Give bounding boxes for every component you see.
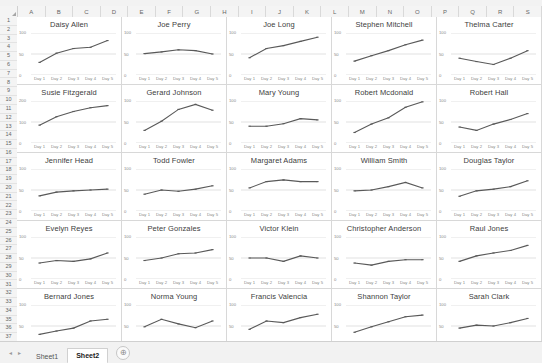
row-header-15[interactable]: 15 <box>0 140 17 149</box>
chart-joe-long[interactable]: Joe Long050100Day 1Day 2Day 3Day 4Day 5 <box>227 17 332 85</box>
row-header-19[interactable]: 19 <box>0 175 17 184</box>
x-tick-label: Day 4 <box>82 75 99 82</box>
x-tick-label: Day 1 <box>241 279 258 286</box>
sheet-prev-icon[interactable]: ◂ <box>9 350 12 356</box>
series-plot <box>241 33 326 75</box>
column-header-k[interactable]: K <box>294 6 322 17</box>
x-tick-label: Day 4 <box>187 279 204 286</box>
row-header-32[interactable]: 32 <box>0 289 17 298</box>
column-header-b[interactable]: B <box>46 6 74 17</box>
x-tick-label: Day 5 <box>99 279 116 286</box>
row-header-7[interactable]: 7 <box>0 70 17 79</box>
sheet-tab-sheet2[interactable]: Sheet2 <box>67 348 108 363</box>
row-header-2[interactable]: 2 <box>0 26 17 35</box>
row-header-25[interactable]: 25 <box>0 228 17 237</box>
chart-sarah-clark[interactable]: Sarah Clark050100Day 1Day 2Day 3Day 4Day… <box>437 289 542 342</box>
row-header-24[interactable]: 24 <box>0 219 17 228</box>
chart-mary-young[interactable]: Mary Young050100Day 1Day 2Day 3Day 4Day … <box>227 85 332 153</box>
row-header-21[interactable]: 21 <box>0 193 17 202</box>
chart-robert-hall[interactable]: Robert Hall050100Day 1Day 2Day 3Day 4Day… <box>437 85 542 153</box>
row-header-35[interactable]: 35 <box>0 316 17 325</box>
x-tick-label: Day 5 <box>519 143 536 150</box>
column-header-m[interactable]: M <box>349 6 377 17</box>
column-header-o[interactable]: O <box>404 6 432 17</box>
x-tick-label: Day 2 <box>363 211 380 218</box>
chart-norma-young[interactable]: Norma Young050100Day 1Day 2Day 3Day 4Day… <box>122 289 227 342</box>
row-header-6[interactable]: 6 <box>0 61 17 70</box>
sheet-tab-sheet1[interactable]: Sheet1 <box>28 350 66 363</box>
row-header-22[interactable]: 22 <box>0 201 17 210</box>
row-header-8[interactable]: 8 <box>0 78 17 87</box>
chart-margaret-adams[interactable]: Margaret Adams050100Day 1Day 2Day 3Day 4… <box>227 153 332 221</box>
row-header-31[interactable]: 31 <box>0 280 17 289</box>
x-axis: Day 1Day 2Day 3Day 4Day 5 <box>346 279 431 286</box>
column-header-j[interactable]: J <box>266 6 294 17</box>
sheet-grid[interactable]: Daisy Allen050100Day 1Day 2Day 3Day 4Day… <box>17 17 542 342</box>
chart-robert-mcdonald[interactable]: Robert Mcdonald050100Day 1Day 2Day 3Day … <box>332 85 437 153</box>
row-header-23[interactable]: 23 <box>0 210 17 219</box>
column-header-l[interactable]: L <box>321 6 349 17</box>
column-header-p[interactable]: P <box>432 6 460 17</box>
select-all-button[interactable] <box>0 6 18 17</box>
y-tick-label: 0 <box>124 278 126 282</box>
chart-title: Francis Valencia <box>227 289 331 301</box>
column-header-g[interactable]: G <box>183 6 211 17</box>
column-header-n[interactable]: N <box>377 6 405 17</box>
chart-william-smith[interactable]: William Smith050100Day 1Day 2Day 3Day 4D… <box>332 153 437 221</box>
row-header-28[interactable]: 28 <box>0 254 17 263</box>
chart-evelyn-reyes[interactable]: Evelyn Reyes050100Day 1Day 2Day 3Day 4Da… <box>17 221 122 289</box>
y-tick-label: 50 <box>229 256 234 260</box>
row-header-20[interactable]: 20 <box>0 184 17 193</box>
row-header-16[interactable]: 16 <box>0 149 17 158</box>
chart-peter-gonzales[interactable]: Peter Gonzales050100Day 1Day 2Day 3Day 4… <box>122 221 227 289</box>
column-header-s[interactable]: S <box>514 6 542 17</box>
column-header-a[interactable]: A <box>18 6 46 17</box>
row-header-17[interactable]: 17 <box>0 158 17 167</box>
chart-raul-jones[interactable]: Raul Jones050100Day 1Day 2Day 3Day 4Day … <box>437 221 542 289</box>
row-header-13[interactable]: 13 <box>0 122 17 131</box>
row-header-30[interactable]: 30 <box>0 272 17 281</box>
row-header-1[interactable]: 1 <box>0 17 17 26</box>
row-header-34[interactable]: 34 <box>0 307 17 316</box>
chart-victor-klein[interactable]: Victor Klein050100Day 1Day 2Day 3Day 4Da… <box>227 221 332 289</box>
row-header-18[interactable]: 18 <box>0 166 17 175</box>
column-header-i[interactable]: I <box>239 6 267 17</box>
chart-francis-valencia[interactable]: Francis Valencia050100Day 1Day 2Day 3Day… <box>227 289 332 342</box>
column-header-d[interactable]: D <box>101 6 129 17</box>
row-header-11[interactable]: 11 <box>0 105 17 114</box>
chart-todd-fowler[interactable]: Todd Fowler050100Day 1Day 2Day 3Day 4Day… <box>122 153 227 221</box>
row-header-5[interactable]: 5 <box>0 52 17 61</box>
chart-gerard-johnson[interactable]: Gerard Johnson050100Day 1Day 2Day 3Day 4… <box>122 85 227 153</box>
row-header-33[interactable]: 33 <box>0 298 17 307</box>
row-header-14[interactable]: 14 <box>0 131 17 140</box>
chart-douglas-taylor[interactable]: Douglas Taylor050100Day 1Day 2Day 3Day 4… <box>437 153 542 221</box>
row-header-3[interactable]: 3 <box>0 35 17 44</box>
x-tick-label: Day 4 <box>82 279 99 286</box>
row-header-27[interactable]: 27 <box>0 245 17 254</box>
row-header-4[interactable]: 4 <box>0 43 17 52</box>
row-header-36[interactable]: 36 <box>0 324 17 333</box>
chart-joe-perry[interactable]: Joe Perry050100Day 1Day 2Day 3Day 4Day 5 <box>122 17 227 85</box>
chart-thelma-carter[interactable]: Thelma Carter050100Day 1Day 2Day 3Day 4D… <box>437 17 542 85</box>
column-header-q[interactable]: Q <box>459 6 487 17</box>
sheet-nav-arrows[interactable]: ◂ ▸ <box>0 350 28 356</box>
row-header-26[interactable]: 26 <box>0 237 17 246</box>
row-header-10[interactable]: 10 <box>0 96 17 105</box>
chart-daisy-allen[interactable]: Daisy Allen050100Day 1Day 2Day 3Day 4Day… <box>17 17 122 85</box>
chart-shannon-taylor[interactable]: Shannon Taylor050100Day 1Day 2Day 3Day 4… <box>332 289 437 342</box>
row-header-12[interactable]: 12 <box>0 114 17 123</box>
column-header-f[interactable]: F <box>156 6 184 17</box>
add-sheet-button[interactable]: ⊕ <box>116 346 130 360</box>
column-header-e[interactable]: E <box>128 6 156 17</box>
chart-susie-fitzgerald[interactable]: Susie Fitzgerald0100200Day 1Day 2Day 3Da… <box>17 85 122 153</box>
row-header-29[interactable]: 29 <box>0 263 17 272</box>
sheet-next-icon[interactable]: ▸ <box>18 350 21 356</box>
chart-bernard-jones[interactable]: Bernard Jones050100Day 1Day 2Day 3Day 4D… <box>17 289 122 342</box>
row-header-9[interactable]: 9 <box>0 87 17 96</box>
column-header-r[interactable]: R <box>487 6 515 17</box>
chart-stephen-mitchell[interactable]: Stephen Mitchell050100Day 1Day 2Day 3Day… <box>332 17 437 85</box>
column-header-c[interactable]: C <box>73 6 101 17</box>
chart-jennifer-head[interactable]: Jennifer Head050100Day 1Day 2Day 3Day 4D… <box>17 153 122 221</box>
chart-christopher-anderson[interactable]: Christopher Anderson050100Day 1Day 2Day … <box>332 221 437 289</box>
column-header-h[interactable]: H <box>211 6 239 17</box>
